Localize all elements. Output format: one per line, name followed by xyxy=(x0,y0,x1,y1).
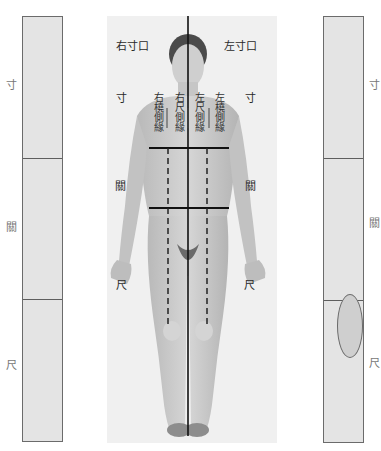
figure-label-chi-left: 尺 xyxy=(116,280,127,291)
left-panel-divider-guan-chi xyxy=(23,299,62,300)
figure-label-guan-right: 關 xyxy=(245,181,256,192)
right-panel-label-guan: 關 xyxy=(369,218,380,229)
right-panel-divider-cun-guan xyxy=(324,158,363,159)
figure-label-cun-left: 寸 xyxy=(116,93,127,104)
chi-pulse-highlight-oval xyxy=(337,294,363,358)
right-pulse-panel xyxy=(323,16,364,443)
right-ulnar-border-label: 右尺側緣 xyxy=(173,92,184,132)
figure-label-guan-left: 關 xyxy=(115,181,126,192)
left-panel-divider-cun-guan xyxy=(23,158,62,159)
figure-label-cun-right: 寸 xyxy=(245,93,256,104)
right-cunkou-label: 右寸口 xyxy=(116,41,149,52)
left-radial-border-label: 左橈側緣 xyxy=(213,92,224,132)
left-panel-label-cun: 寸 xyxy=(6,80,17,91)
left-pulse-panel xyxy=(22,16,63,442)
human-body-figure: 右寸口 左寸口 寸 寸 關 關 尺 尺 右橈側緣 右尺側緣 左尺側緣 左橈側緣 xyxy=(107,16,277,443)
right-panel-label-chi: 尺 xyxy=(369,358,380,369)
body-silhouette-icon xyxy=(107,16,277,443)
left-ulnar-border-label: 左尺側緣 xyxy=(193,92,204,132)
left-panel-label-guan: 關 xyxy=(6,222,17,233)
right-panel-label-cun: 寸 xyxy=(369,80,380,91)
figure-label-chi-right: 尺 xyxy=(244,280,255,291)
left-cunkou-label: 左寸口 xyxy=(224,41,257,52)
right-radial-border-label: 右橈側緣 xyxy=(152,92,163,132)
left-panel-label-chi: 尺 xyxy=(6,360,17,371)
